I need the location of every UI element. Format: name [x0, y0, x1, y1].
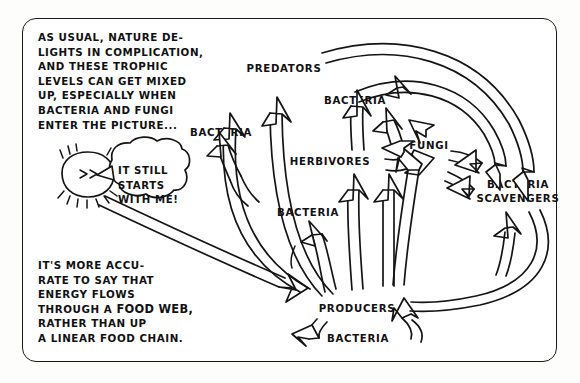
caption-bottom: IT'S MORE ACCU- RATE TO SAY THAT ENERGY …: [38, 258, 243, 346]
caption-bottom-part2: RATHER THAN UP A LINEAR FOOD CHAIN.: [38, 317, 183, 344]
node-label-producers: PRODUCERS: [319, 302, 396, 316]
node-label-bacteria-left: BACTERIA: [190, 126, 252, 140]
node-label-bacteria-mid: BACTERIA: [277, 206, 339, 220]
node-label-bacteria-bottom: BACTERIA: [327, 332, 389, 346]
node-label-bacteria-scavengers: BACTERIA SCAVENGERS: [477, 178, 560, 205]
node-label-fungi: FUNGI: [409, 139, 448, 153]
caption-bottom-emphasis: FOOD WEB,: [116, 302, 193, 316]
node-label-predators: PREDATORS: [247, 62, 322, 76]
node-label-bacteria-upper: BACTERIA: [324, 94, 386, 108]
speech-bubble-text: IT STILL STARTS WITH ME!: [118, 164, 192, 208]
caption-top: AS USUAL, NATURE DE- LIGHTS IN COMPLICAT…: [38, 30, 228, 132]
node-label-herbivores: HERBIVORES: [290, 155, 370, 169]
